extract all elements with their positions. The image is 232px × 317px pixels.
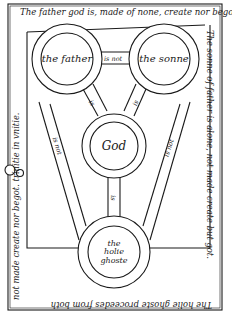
edge-father-sonne: is not <box>104 55 122 63</box>
node-sonne: the sonne <box>138 54 190 65</box>
border-text-top: The father god is, made of none, create … <box>20 8 232 17</box>
node-god: God <box>94 140 134 153</box>
edge-holie-ghoste-god: is <box>109 195 117 200</box>
border-text-bottom: The holie ghoste proceedes from both <box>51 301 212 309</box>
shield-of-trinity-diagram: The father god is, made of none, create … <box>0 0 232 317</box>
diagram-lines <box>0 0 232 317</box>
node-father: the father <box>41 54 93 65</box>
border-text-left: not made create nor begot. trinitie in v… <box>12 112 20 300</box>
border-text-right: The sonne of father is alone, not made c… <box>206 30 214 259</box>
node-holie-ghoste: the holie ghoste <box>92 240 136 265</box>
node-holie-ghoste-line2: holie ghoste <box>100 247 127 264</box>
